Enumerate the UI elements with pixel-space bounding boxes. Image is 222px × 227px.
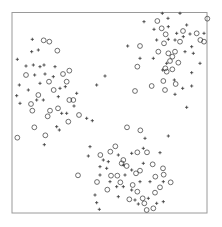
plus-marker [87,154,90,157]
plus-marker [98,165,101,168]
plus-marker [167,38,170,41]
plus-marker [95,201,98,204]
plus-marker [98,208,101,211]
plus-marker [161,68,164,71]
plus-marker [122,185,125,188]
circle-marker [124,164,129,169]
plus-marker [183,50,186,53]
plus-marker [30,50,33,53]
circle-marker [29,102,34,107]
plus-marker [190,71,193,74]
plus-marker [35,98,38,101]
circle-marker [144,208,149,213]
plus-marker [65,112,68,115]
plus-marker [64,85,67,88]
circle-marker [138,44,143,49]
plus-marker [33,73,36,76]
plus-marker [152,57,155,60]
plus-marker [98,173,101,176]
plus-marker [181,87,184,90]
circle-marker [149,84,154,89]
plus-marker [202,32,205,35]
circle-marker [140,196,145,201]
plus-marker [123,173,126,176]
plus-marker [142,162,145,165]
plus-marker [108,180,111,183]
circle-marker [98,153,103,158]
plus-marker [15,94,18,97]
plus-marker [117,195,120,198]
plus-marker [142,147,145,150]
circle-marker [95,180,100,185]
plus-marker [147,197,150,200]
circle-marker [145,150,150,155]
plus-marker [173,78,176,81]
plus-marker [142,20,145,23]
series-circles [15,16,210,212]
plus-marker [24,64,27,67]
plus-marker [175,32,178,35]
circle-marker [77,113,82,118]
plus-marker [72,104,75,107]
circle-marker [66,119,71,124]
plus-marker [18,102,21,105]
plus-marker [38,65,41,68]
circle-marker [47,79,52,84]
plus-marker [88,145,91,148]
circle-marker [118,180,123,185]
circle-marker [166,51,171,56]
plus-marker [58,128,61,131]
plus-marker [185,106,188,109]
circle-marker [178,39,183,44]
plus-marker [130,168,133,171]
plus-marker [185,23,188,26]
circle-marker [61,72,66,77]
circle-marker [32,125,37,130]
plus-marker [53,65,56,68]
plot-area [0,0,222,227]
circle-marker [130,183,135,188]
circle-marker [105,187,110,192]
circle-marker [170,67,175,72]
plus-marker [155,202,158,205]
circle-marker [55,48,60,53]
circle-marker [163,32,168,37]
plus-marker [155,38,158,41]
circle-marker [113,144,118,149]
circle-marker [163,88,168,93]
plus-marker [133,198,136,201]
plus-marker [117,153,120,156]
circle-marker [161,172,166,177]
plus-marker [137,202,140,205]
circle-marker [135,150,140,155]
plus-marker [138,57,141,60]
plus-marker [43,143,46,146]
circle-marker [159,26,164,31]
circle-marker [194,31,199,36]
plus-marker [138,180,141,183]
plus-marker [158,151,161,154]
plus-marker [162,180,165,183]
circle-marker [156,49,161,54]
plus-marker [167,25,170,28]
circle-marker [138,128,143,133]
circle-marker [161,79,166,84]
plus-marker [55,125,58,128]
plus-marker [52,75,55,78]
plus-marker [190,84,193,87]
circle-marker [67,68,72,73]
circle-marker [153,190,158,195]
plus-marker [115,185,118,188]
plus-marker [190,45,193,48]
plus-marker [143,137,146,140]
data-points [15,12,210,213]
circle-marker [158,185,163,190]
plus-marker [27,88,30,91]
plus-marker [37,48,40,51]
plus-marker [105,167,108,170]
circle-marker [108,149,113,154]
circle-marker [155,19,160,24]
plus-marker [126,44,129,47]
plus-marker [38,82,41,85]
circle-marker [30,108,35,113]
